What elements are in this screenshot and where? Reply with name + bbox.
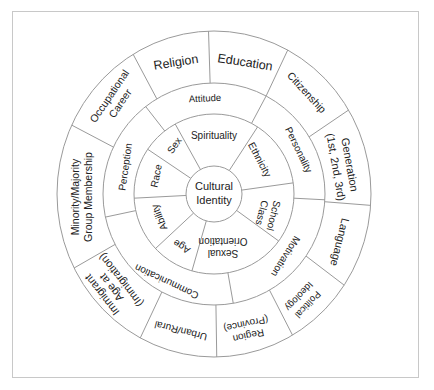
outer-segment-education: Education [217,51,274,74]
divider-line [216,305,217,357]
middle-segment-motivation: Motivation [269,234,302,278]
divider-line [146,107,165,131]
divider-line [105,211,135,217]
inner-segment-sex: Sex [165,135,184,155]
inner-segment-sexual-orientation-line1: Sexual [208,248,239,259]
outer-segment-language: Language [328,217,351,267]
divider-line [325,202,371,206]
divider-line [72,125,114,147]
inner-segment-age: Age [171,237,192,256]
middle-segment-communication: Communication [133,262,201,301]
middle-segment-personality: Personality [283,125,315,174]
divider-line [252,96,267,123]
divider-line [209,31,211,83]
inner-segment-ethnicity: Ethnicity [246,140,273,179]
divider-line [294,198,325,200]
inner-segment-ability: Ability [149,203,169,232]
middle-segment-attitude: Attitude [189,92,222,105]
outer-segment-minority-majority-line1: Minority/Majority [69,158,81,235]
center-label-line2: Identity [196,194,232,206]
inner-segment-spirituality: Spirituality [191,130,237,141]
center-label-line1: Cultural [195,180,233,192]
cultural-identity-wheel: Cultural Identity Spirituality Ethnicity… [0,0,434,390]
divider-line [134,195,186,198]
divider-line [242,183,293,190]
outer-segment-religion: Religion [152,52,199,73]
middle-segment-perception: Perception [116,142,134,191]
inner-segment-sexual-orientation-line2: Orientation [199,236,248,247]
divider-line [270,290,293,335]
outer-segment-minority-majority-line2: Group Membership [82,152,94,242]
divider-line [228,273,233,304]
inner-segment-race: Race [148,163,164,189]
outer-segment-urban-rural: Urban/Rural [153,319,208,343]
